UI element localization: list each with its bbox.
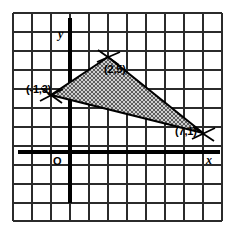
x-axis-label: x — [206, 154, 212, 166]
y-axis-label: y — [58, 28, 63, 40]
vertex-label-b: (-1,3) — [26, 84, 51, 95]
vertex-label-a: (2,5) — [104, 64, 126, 75]
origin-label: O — [53, 156, 62, 167]
graph-canvas — [0, 0, 234, 232]
coordinate-grid-figure: (2,5) (-1,3) (7,1) y x O — [0, 0, 234, 232]
vertex-label-c: (7,1) — [175, 126, 197, 137]
grid-lines — [13, 13, 222, 221]
